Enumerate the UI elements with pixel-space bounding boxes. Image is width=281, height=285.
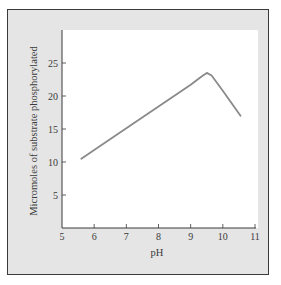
ph-activity-chart: 510152025 567891011 pH Micromoles of sub… xyxy=(0,0,281,285)
x-tick-label: 10 xyxy=(218,231,228,242)
x-tick-label: 7 xyxy=(124,231,129,242)
plot-area xyxy=(62,30,258,228)
x-axis-label: pH xyxy=(151,247,164,258)
x-tick-label: 11 xyxy=(250,231,260,242)
x-tick-label: 6 xyxy=(92,231,97,242)
x-tick-label: 8 xyxy=(156,231,161,242)
y-tick-label: 10 xyxy=(48,157,58,168)
x-tick-label: 9 xyxy=(188,231,193,242)
x-tick-label: 5 xyxy=(60,231,65,242)
y-tick-label: 25 xyxy=(48,58,58,69)
y-tick-label: 20 xyxy=(48,91,58,102)
y-tick-label: 15 xyxy=(48,124,58,135)
y-tick-label: 5 xyxy=(53,190,58,201)
y-axis-label: Micromoles of substrate phosphorylated xyxy=(28,46,39,216)
